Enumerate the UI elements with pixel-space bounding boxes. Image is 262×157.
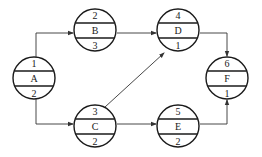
node-d-bottom: 1 <box>176 40 181 51</box>
edge-a-c <box>36 99 73 124</box>
node-f-name: F <box>224 73 230 84</box>
node-d: 4 D 1 <box>157 9 199 51</box>
node-b-name: B <box>92 25 99 36</box>
node-a-name: A <box>30 73 38 84</box>
node-c-top: 3 <box>93 106 98 117</box>
edge-c-d <box>105 53 164 107</box>
edge-d-f <box>200 33 227 56</box>
node-d-name: D <box>174 25 181 36</box>
edge-e-f <box>200 100 227 124</box>
node-e-bottom: 2 <box>176 136 181 147</box>
node-e: 5 E 2 <box>157 105 199 147</box>
node-d-top: 4 <box>176 10 181 21</box>
node-f: 6 F 1 <box>206 57 248 99</box>
node-c-name: C <box>92 121 99 132</box>
node-f-top: 6 <box>225 58 230 69</box>
edge-a-b <box>36 33 73 57</box>
node-e-name: E <box>175 121 181 132</box>
node-e-top: 5 <box>176 106 181 117</box>
node-b: 2 B 3 <box>74 9 116 51</box>
node-a: 1 A 2 <box>13 57 55 99</box>
network-diagram: 1 A 2 2 B 3 3 C 2 4 D 1 5 E 2 <box>0 0 262 157</box>
node-c-bottom: 2 <box>93 136 98 147</box>
node-b-top: 2 <box>93 10 98 21</box>
node-b-bottom: 3 <box>93 40 98 51</box>
node-a-top: 1 <box>32 58 37 69</box>
node-c: 3 C 2 <box>74 105 116 147</box>
node-f-bottom: 1 <box>225 88 230 99</box>
node-a-bottom: 2 <box>32 88 37 99</box>
